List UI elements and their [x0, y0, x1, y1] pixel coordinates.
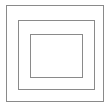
inner-square — [30, 34, 83, 78]
